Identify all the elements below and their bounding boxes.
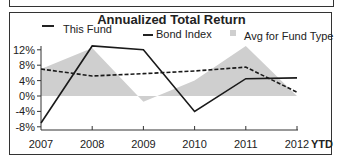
x-tick-label: 2010: [182, 138, 206, 150]
y-tick-label: -4%: [15, 105, 35, 117]
x-tick-label: 2011: [234, 138, 258, 150]
y-tick-label: 12%: [13, 44, 35, 56]
y-tick-label: -8%: [15, 121, 35, 133]
x-tick-label: 2012: [285, 138, 309, 150]
plot-area: 12%8%4%0%-4%-8%200720082009201020112012Y…: [0, 0, 343, 166]
y-tick-label: 0%: [19, 90, 35, 102]
x-tick-label: 2008: [80, 138, 104, 150]
x-tick-label: 2009: [131, 138, 155, 150]
x-tick-label: 2007: [29, 138, 53, 150]
y-tick-label: 8%: [19, 59, 35, 71]
ytd-label: YTD: [311, 138, 333, 150]
y-tick-label: 4%: [19, 75, 35, 87]
